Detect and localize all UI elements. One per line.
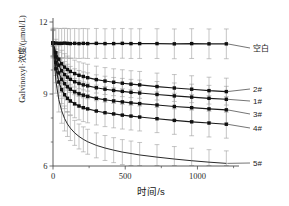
chart-figure: 691205001000 空白2#1#3#4#5# Galvinoxyl·浓度/… bbox=[0, 0, 289, 206]
y-axis-title-text: Galvinoxyl·浓度/(μmol/L) bbox=[18, 15, 27, 103]
x-axis-title: 时间/s bbox=[96, 184, 206, 198]
series-label-空白: 空白 bbox=[253, 43, 269, 53]
x-tick-label: 0 bbox=[51, 171, 55, 181]
series-label-2#: 2# bbox=[253, 85, 262, 94]
y-tick-label: 6 bbox=[43, 161, 47, 171]
leader-line-1# bbox=[227, 99, 250, 101]
leader-line-3# bbox=[227, 110, 250, 114]
y-tick-label: 12 bbox=[39, 17, 48, 27]
error-bars-layer bbox=[51, 28, 229, 165]
series-label-5#: 5# bbox=[253, 159, 262, 168]
series-label-1#: 1# bbox=[253, 97, 262, 106]
leader-line-4# bbox=[227, 124, 250, 128]
series-annotations-layer: 空白2#1#3#4#5# bbox=[227, 43, 269, 168]
x-tick-label: 1000 bbox=[189, 171, 206, 181]
leader-line-2# bbox=[227, 89, 250, 92]
series-label-4#: 4# bbox=[253, 124, 262, 133]
chart-plot-svg: 691205001000 空白2#1#3#4#5# bbox=[0, 0, 289, 206]
series-label-3#: 3# bbox=[253, 110, 262, 119]
y-tick-label: 9 bbox=[43, 89, 47, 99]
x-axis-title-text: 时间/s bbox=[137, 186, 164, 197]
x-tick-label: 500 bbox=[119, 171, 132, 181]
leader-line-空白 bbox=[227, 44, 250, 48]
y-axis-title: Galvinoxyl·浓度/(μmol/L) bbox=[15, 0, 29, 119]
